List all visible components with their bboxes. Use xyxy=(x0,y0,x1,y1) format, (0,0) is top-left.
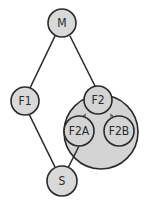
node-s: S xyxy=(47,166,77,196)
edge-m-f1 xyxy=(30,36,55,88)
node-f2b-label: F2B xyxy=(109,124,129,138)
node-f2-label: F2 xyxy=(91,93,104,107)
node-f1-label: F1 xyxy=(18,94,31,108)
diagram-canvas: M F1 F2 F2A F2B S xyxy=(0,0,146,208)
node-m-label: M xyxy=(57,16,66,30)
node-f2b: F2B xyxy=(104,116,134,146)
node-f2: F2 xyxy=(84,86,112,114)
edge-m-f2 xyxy=(70,36,96,88)
node-f2a-label: F2A xyxy=(69,124,90,138)
node-f2a: F2A xyxy=(64,116,94,146)
node-m: M xyxy=(48,9,76,37)
node-f1: F1 xyxy=(11,87,39,115)
node-s-label: S xyxy=(59,174,66,188)
edge-f1-s xyxy=(29,114,55,167)
